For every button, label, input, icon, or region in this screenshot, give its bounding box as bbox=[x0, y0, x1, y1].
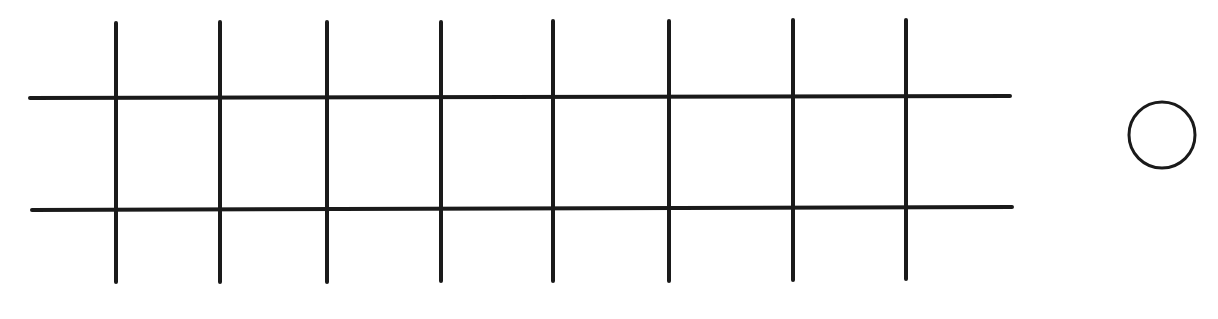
horizontal-lines bbox=[30, 96, 1012, 210]
vertical-lines bbox=[116, 20, 906, 282]
horizontal-line-2 bbox=[32, 207, 1012, 210]
horizontal-line-1 bbox=[30, 96, 1010, 98]
circle-shape bbox=[1129, 102, 1195, 168]
grid-diagram bbox=[0, 0, 1218, 319]
